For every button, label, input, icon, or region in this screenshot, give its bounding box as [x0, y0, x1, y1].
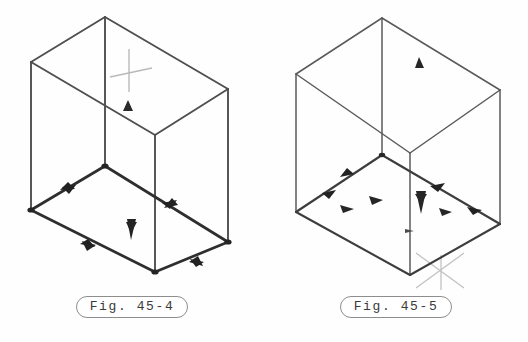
figure-45-4-drawing: [0, 0, 264, 300]
figure-caption-45-5: Fig. 45-5: [340, 296, 453, 318]
figure-page: Fig. 45-4: [0, 0, 528, 342]
figure-caption-45-4: Fig. 45-4: [76, 296, 189, 318]
figure-caption-wrap-left: Fig. 45-4: [0, 296, 264, 318]
figure-caption-wrap-right: Fig. 45-5: [264, 296, 528, 318]
small-arrow-marker-icon: [439, 208, 452, 216]
up-arrow-marker-icon: [415, 57, 424, 68]
up-arrow-marker-icon: [123, 100, 133, 111]
figure-45-5-drawing: [264, 0, 528, 300]
left-arrow-marker-icon: [340, 205, 354, 213]
crosshair-marker-icon: [110, 49, 152, 92]
floor-arrow-markers: [340, 57, 452, 233]
cube-floor-edges: [296, 155, 500, 275]
slanted-arrow-marker-icon: [369, 196, 383, 205]
vertex-node: [379, 153, 385, 157]
figure-panel-right: Fig. 45-5: [264, 0, 528, 342]
figure-panel-left: Fig. 45-4: [0, 0, 264, 342]
cube-vertical-edges: [296, 18, 500, 275]
down-arrow-marker-icon: [126, 219, 137, 240]
cube-top-edges: [296, 18, 500, 153]
